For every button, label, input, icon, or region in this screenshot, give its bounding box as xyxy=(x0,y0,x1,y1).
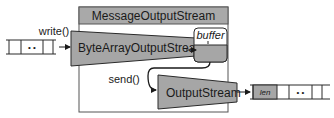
send-label: send() xyxy=(108,73,139,85)
message-output-stream-diagram: MessageOutputStream • • write() ByteArra… xyxy=(0,0,334,118)
input-array-dots: • • xyxy=(28,43,36,52)
output-array-dots: • • xyxy=(297,88,305,97)
input-array: • • xyxy=(6,40,56,54)
write-label: write() xyxy=(38,25,70,37)
container-title: MessageOutputStream xyxy=(92,9,215,23)
output-array: len • • xyxy=(250,85,330,99)
buffer: buffer xyxy=(194,28,227,62)
output-stream-label: OutputStream xyxy=(166,86,241,100)
buffer-label: buffer xyxy=(196,29,225,41)
output-array-len-label: len xyxy=(260,88,271,97)
byte-array-output-stream-label: ByteArrayOutputStream xyxy=(78,41,205,55)
